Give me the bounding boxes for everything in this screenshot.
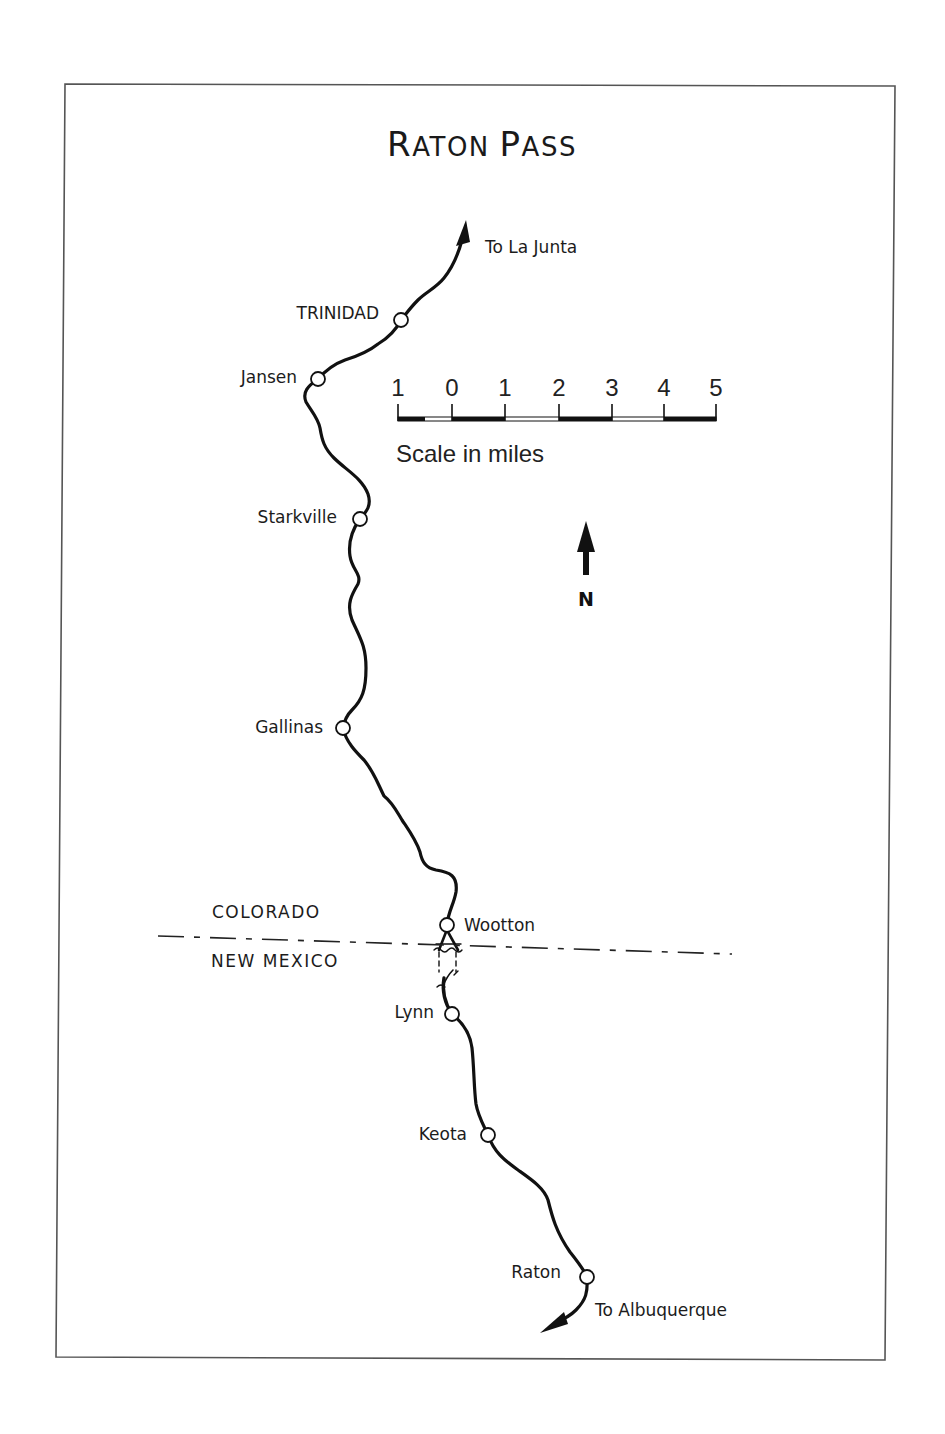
map-title: RATON PASS (387, 124, 577, 164)
scale-tick-label: 2 (552, 374, 565, 401)
station-lynn-marker[interactable] (445, 1007, 459, 1021)
raton-pass-map: RATON PASS To La Junta TRINID (0, 0, 945, 1434)
scale-caption: Scale in miles (396, 440, 544, 467)
scale-tick-label: 4 (657, 374, 670, 401)
label-to-la-junta: To La Junta (484, 237, 577, 257)
label-gallinas: Gallinas (255, 717, 323, 737)
label-keota: Keota (419, 1124, 467, 1144)
arrow-north-icon (456, 220, 470, 246)
label-raton: Raton (511, 1262, 561, 1282)
scale-tick-label: 0 (445, 374, 458, 401)
station-gallinas-marker[interactable] (336, 721, 350, 735)
north-arrow-icon (577, 521, 595, 552)
label-new-mexico: NEW MEXICO (211, 951, 339, 971)
map-frame (56, 84, 895, 1360)
scale-bar: 1 0 1 2 3 4 5 Scale in miles (391, 374, 722, 467)
north-arrow: N (577, 521, 595, 610)
scale-tick-label: 5 (709, 374, 722, 401)
north-label: N (578, 588, 594, 610)
label-colorado: COLORADO (212, 902, 321, 922)
label-starkville: Starkville (258, 507, 337, 527)
label-jansen: Jansen (240, 367, 297, 387)
station-wootton-marker[interactable] (440, 918, 454, 932)
station-trinidad-marker[interactable] (394, 313, 408, 327)
scale-tick-label: 1 (498, 374, 511, 401)
station-starkville-marker[interactable] (353, 512, 367, 526)
label-wootton: Wootton (464, 915, 535, 935)
station-raton-marker[interactable] (580, 1270, 594, 1284)
scale-tick-label: 3 (605, 374, 618, 401)
scale-tick-label: 1 (391, 374, 404, 401)
arrow-south-icon (540, 1312, 568, 1333)
railroad-route-middle (343, 728, 456, 925)
station-keota-marker[interactable] (481, 1128, 495, 1142)
label-trinidad: TRINIDAD (296, 303, 379, 323)
label-to-albuquerque: To Albuquerque (594, 1300, 727, 1320)
station-jansen-marker[interactable] (311, 372, 325, 386)
label-lynn: Lynn (394, 1002, 434, 1022)
